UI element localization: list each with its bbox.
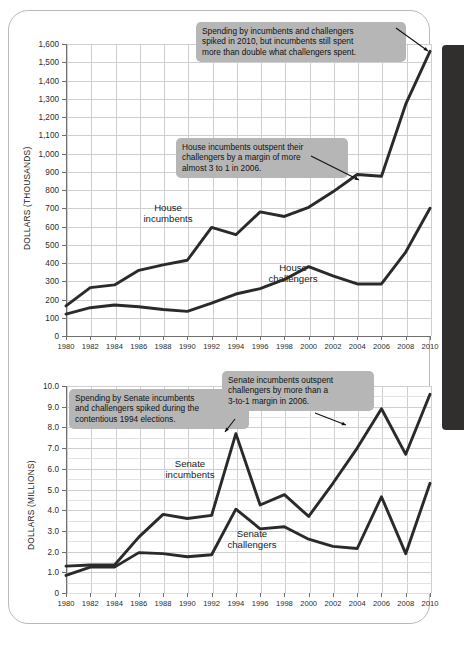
senate-spending-chart: DOLLARS (MILLIONS) 01.02.03.04.05.06.07.…: [0, 360, 464, 648]
callout-arrow: [396, 28, 428, 51]
series-line-senate-challengers: [66, 483, 430, 575]
house-spending-chart: DOLLARS (THOUSANDS) 01002003004005006007…: [0, 0, 464, 360]
house-series-layer: [0, 0, 464, 360]
series-line-senate-incumbents: [66, 394, 430, 566]
callout-arrow: [311, 156, 359, 180]
page-root: DOLLARS (THOUSANDS) 01002003004005006007…: [0, 0, 464, 648]
senate-series-layer: [0, 360, 464, 648]
series-line-house-incumbents: [66, 51, 430, 306]
callout-arrow: [315, 413, 346, 425]
